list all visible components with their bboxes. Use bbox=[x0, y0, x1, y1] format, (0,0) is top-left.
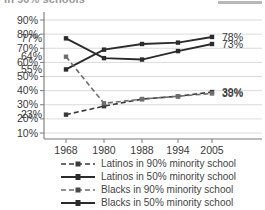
chart-legend: Latinos in 90% minority school Latinos i… bbox=[60, 157, 265, 209]
data-point-marker bbox=[140, 42, 144, 46]
legend-label: Blacks in 90% minority school bbox=[101, 184, 233, 196]
legend-key-dashed-icon bbox=[60, 184, 96, 196]
legend-key-dashed-icon bbox=[60, 158, 96, 170]
data-value-annotation: 73% bbox=[222, 38, 243, 50]
data-point-marker bbox=[102, 101, 106, 105]
data-value-annotation: 23% bbox=[21, 108, 42, 120]
data-point-marker bbox=[176, 94, 180, 98]
legend-key-solid-icon bbox=[60, 171, 96, 183]
series-line bbox=[66, 37, 212, 69]
data-point-marker bbox=[64, 55, 68, 59]
series-line bbox=[66, 57, 212, 104]
legend-item[interactable]: Latinos in 50% minority school bbox=[60, 170, 265, 183]
x-axis-label: 1994 bbox=[166, 144, 190, 155]
y-axis-label: 10% bbox=[17, 127, 38, 139]
legend-key-solid-icon bbox=[60, 197, 96, 209]
x-axis-label: 1980 bbox=[92, 144, 116, 155]
y-axis-label: 40% bbox=[17, 84, 38, 96]
data-point-marker bbox=[176, 49, 180, 53]
data-point-marker bbox=[210, 42, 214, 46]
legend-item[interactable]: Blacks in 90% minority school bbox=[60, 183, 265, 196]
legend-label: Latinos in 90% minority school bbox=[101, 158, 236, 170]
data-value-annotation: 55% bbox=[21, 63, 42, 75]
legend-label: Blacks in 50% minority school bbox=[101, 197, 233, 209]
data-point-marker bbox=[64, 36, 68, 40]
legend-label: Latinos in 50% minority school bbox=[101, 171, 236, 183]
legend-item[interactable]: Latinos in 90% minority school bbox=[60, 157, 265, 170]
data-point-marker bbox=[102, 56, 106, 60]
x-axis-label: 2005 bbox=[200, 144, 224, 155]
data-point-marker bbox=[102, 47, 106, 51]
data-point-marker bbox=[140, 57, 144, 61]
legend-item[interactable]: Blacks in 50% minority school bbox=[60, 196, 265, 209]
data-point-marker bbox=[64, 67, 68, 71]
x-axis-label: 1968 bbox=[54, 144, 78, 155]
x-axis-label: 1988 bbox=[130, 144, 154, 155]
chart-plot-area: 10%20%30%40%50%60%70%80%90%1968198019881… bbox=[0, 0, 265, 155]
data-point-marker bbox=[140, 97, 144, 101]
data-point-marker bbox=[210, 35, 214, 39]
data-point-marker bbox=[210, 91, 214, 95]
y-axis-label: 90% bbox=[17, 14, 38, 26]
chart-container: in 90% schools 10%20%30%40%50%60%70%80%9… bbox=[0, 0, 265, 210]
data-point-marker bbox=[176, 40, 180, 44]
data-value-annotation: 77% bbox=[21, 32, 42, 44]
data-point-marker bbox=[64, 112, 68, 116]
data-value-annotation: 38% bbox=[222, 87, 243, 99]
data-value-annotation: 64% bbox=[21, 50, 42, 62]
